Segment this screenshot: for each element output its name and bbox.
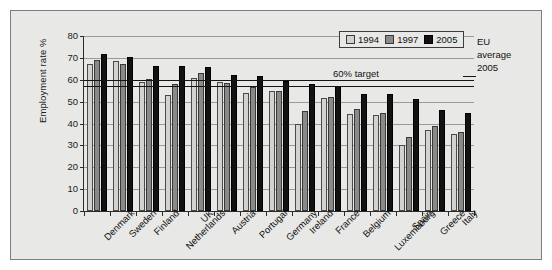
- bar-netherlands-2005: [179, 66, 185, 211]
- x-axis-label-sweden: Sweden: [127, 208, 158, 239]
- bar-group: [110, 36, 136, 211]
- x-axis-tick-mark: [110, 211, 111, 216]
- x-axis-tick-mark: [240, 211, 241, 216]
- x-axis-tick-mark: [162, 211, 163, 216]
- legend-swatch-2005: [424, 35, 433, 44]
- bar-ireland-2005: [309, 84, 315, 211]
- bar-uk-1994: [191, 78, 197, 211]
- bar-austria-1997: [224, 83, 230, 211]
- legend-label-1997: 1997: [397, 35, 418, 45]
- bar-series-container: [84, 36, 474, 211]
- reference-line-target: [84, 80, 474, 81]
- x-axis-label-ireland: Ireland: [308, 208, 335, 235]
- x-axis-label-netherlands: Netherlands: [184, 208, 227, 251]
- bar-belgium-1997: [354, 109, 360, 211]
- legend-swatch-1994: [346, 35, 355, 44]
- bar-spain-2005: [413, 99, 419, 211]
- chart-figure: Employment rate % 01020304050607080 60% …: [0, 0, 552, 270]
- target-line-label: 60% target: [330, 68, 382, 79]
- legend-item-2005: 2005: [424, 35, 457, 45]
- bar-spain-1997: [406, 137, 412, 211]
- chart-panel: Employment rate % 01020304050607080 60% …: [10, 10, 542, 260]
- x-axis-label-denmark: Denmark: [102, 208, 136, 242]
- x-axis-label-luxembourg: Luxembourg: [392, 208, 436, 252]
- y-axis-tick-label: 0: [73, 206, 78, 216]
- x-axis-tick-mark: [266, 211, 267, 216]
- bar-austria-2005: [231, 75, 237, 211]
- eu-average-line-extension: [463, 76, 476, 77]
- bar-group: [318, 36, 344, 211]
- bar-france-1997: [328, 97, 334, 211]
- bar-finland-1997: [146, 79, 152, 211]
- bar-ireland-1994: [295, 124, 301, 212]
- x-axis-tick-mark: [474, 211, 475, 216]
- x-axis-tick-mark: [84, 211, 85, 216]
- bar-germany-1997: [276, 91, 282, 211]
- bar-italy-1994: [451, 134, 457, 211]
- eu-average-annotation-line: 2005: [477, 61, 511, 74]
- bar-austria-1994: [217, 82, 223, 211]
- bar-portugal-1994: [243, 93, 249, 211]
- y-axis-tick-label: 30: [67, 141, 78, 151]
- bar-italy-1997: [458, 132, 464, 211]
- bar-group: [214, 36, 240, 211]
- bar-group: [136, 36, 162, 211]
- bar-spain-1994: [399, 145, 405, 211]
- x-axis-tick-mark: [344, 211, 345, 216]
- chart-legend: 199419972005: [339, 31, 464, 48]
- y-axis-tick-label: 60: [67, 75, 78, 85]
- x-axis-label-austria: Austria: [230, 208, 258, 236]
- bar-denmark-1997: [94, 60, 100, 211]
- y-axis-tick-label: 70: [67, 53, 78, 63]
- x-axis-tick-mark: [422, 211, 423, 216]
- legend-swatch-1997: [385, 35, 394, 44]
- legend-label-1994: 1994: [358, 35, 379, 45]
- bar-greece-1997: [432, 126, 438, 211]
- bar-denmark-2005: [101, 54, 107, 212]
- bar-ireland-1997: [302, 111, 308, 211]
- reference-line-eu-average: [84, 86, 474, 87]
- bar-group: [84, 36, 110, 211]
- y-axis-tick-label: 40: [67, 119, 78, 129]
- bar-uk-2005: [205, 67, 211, 211]
- bar-netherlands-1994: [165, 95, 171, 211]
- eu-average-annotation-line: average: [477, 48, 511, 61]
- x-axis-label-finland: Finland: [152, 208, 181, 237]
- bar-belgium-2005: [361, 94, 367, 211]
- eu-average-annotation: EUaverage2005: [477, 35, 511, 74]
- bar-germany-1994: [269, 91, 275, 211]
- bar-group: [162, 36, 188, 211]
- bar-portugal-2005: [257, 76, 263, 211]
- bar-group: [396, 36, 422, 211]
- legend-item-1994: 1994: [346, 35, 379, 45]
- bar-group: [448, 36, 474, 211]
- bar-uk-1997: [198, 73, 204, 211]
- bar-group: [266, 36, 292, 211]
- x-axis-tick-mark: [318, 211, 319, 216]
- bar-group: [240, 36, 266, 211]
- eu-average-annotation-line: EU: [477, 35, 511, 48]
- bar-netherlands-1997: [172, 84, 178, 211]
- legend-item-1997: 1997: [385, 35, 418, 45]
- bar-france-1994: [321, 98, 327, 211]
- x-axis-label-france: France: [334, 208, 362, 236]
- bar-luxembourg-1994: [373, 115, 379, 211]
- bar-belgium-1994: [347, 114, 353, 211]
- bar-group: [370, 36, 396, 211]
- bar-italy-2005: [465, 113, 471, 211]
- x-axis-label-germany: Germany: [284, 208, 318, 242]
- x-axis-tick-mark: [396, 211, 397, 216]
- plot-area: 01020304050607080 60% target: [83, 36, 474, 212]
- bar-luxembourg-1997: [380, 113, 386, 211]
- bar-greece-2005: [439, 110, 445, 211]
- x-axis-tick-mark: [188, 211, 189, 216]
- bar-group: [292, 36, 318, 211]
- y-axis-tick-label: 80: [67, 31, 78, 41]
- bar-portugal-1997: [250, 87, 256, 211]
- bar-group: [188, 36, 214, 211]
- x-axis-tick-mark: [292, 211, 293, 216]
- bar-finland-2005: [153, 66, 159, 211]
- x-axis-tick-mark: [214, 211, 215, 216]
- x-axis-tick-mark: [136, 211, 137, 216]
- x-axis-tick-mark: [370, 211, 371, 216]
